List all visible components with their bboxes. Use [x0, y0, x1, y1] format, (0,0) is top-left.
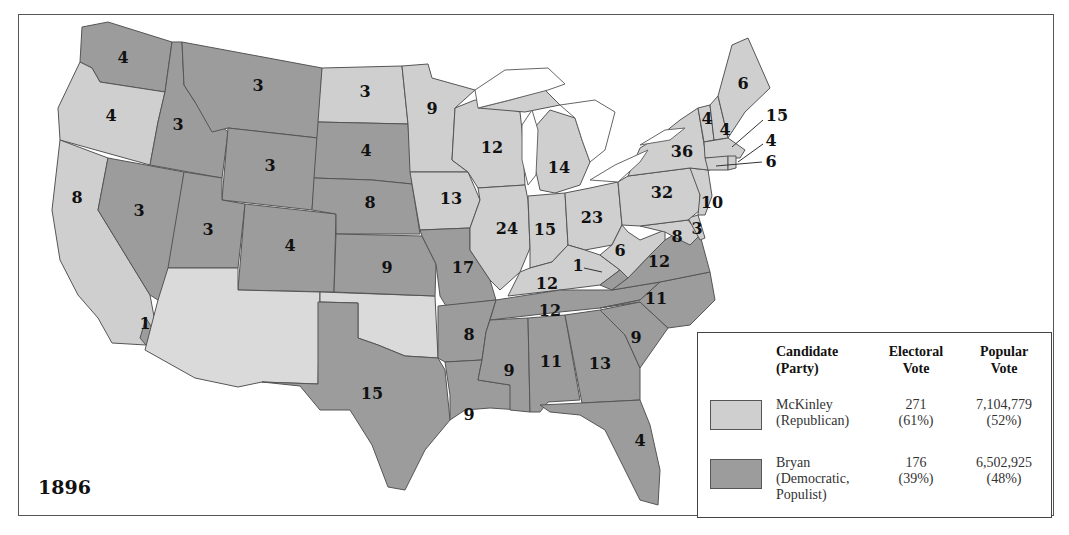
candidate-name: McKinley	[776, 397, 849, 413]
legend-header-popular: Popular Vote	[964, 343, 1044, 377]
label-ct: 6	[765, 152, 776, 171]
label-il: 24	[496, 219, 518, 238]
label-mo: 17	[452, 258, 474, 277]
legend-header-candidate: Candidate (Party)	[776, 343, 838, 377]
legend-header-electoral-line2: Vote	[878, 360, 954, 377]
label-wi: 12	[481, 138, 503, 157]
label-ne: 8	[364, 193, 375, 212]
legend-swatch-mckinley	[710, 400, 762, 430]
election-year: 1896	[38, 476, 91, 498]
popular-count: 7,104,779	[964, 397, 1044, 413]
legend-popular-mckinley: 7,104,779 (52%)	[964, 397, 1044, 429]
label-ca-split: 1	[139, 314, 150, 333]
label-sc: 9	[630, 328, 641, 347]
label-ky: 12	[536, 274, 558, 293]
label-va: 12	[648, 252, 670, 271]
label-mn: 9	[426, 99, 437, 118]
label-nc: 11	[645, 289, 667, 308]
label-co: 4	[284, 236, 295, 255]
legend-header-popular-line2: Vote	[964, 360, 1044, 377]
candidate-party: (Democratic,	[776, 471, 849, 487]
popular-pct: (48%)	[964, 471, 1044, 487]
label-ky-split: 1	[572, 256, 583, 275]
legend-electoral-mckinley: 271 (61%)	[878, 397, 954, 429]
legend-swatch-bryan	[710, 459, 762, 489]
label-ca: 8	[71, 188, 82, 207]
candidate-name: Bryan	[776, 455, 849, 471]
label-ri: 4	[765, 131, 776, 150]
label-tn: 12	[539, 301, 561, 320]
label-in: 15	[534, 220, 556, 239]
label-ar: 8	[463, 325, 474, 344]
label-wv: 6	[614, 241, 625, 260]
legend-box: Candidate (Party) Electoral Vote Popular…	[697, 332, 1052, 518]
legend-electoral-bryan: 176 (39%)	[878, 455, 954, 487]
label-oh: 23	[581, 208, 603, 227]
label-nj: 10	[701, 193, 723, 212]
electoral-count: 176	[878, 455, 954, 471]
state-ri	[728, 156, 736, 170]
label-sd: 4	[360, 141, 371, 160]
legend-header-electoral: Electoral Vote	[878, 343, 954, 377]
label-fl: 4	[634, 431, 645, 450]
label-nv: 3	[133, 201, 144, 220]
label-pa: 32	[651, 183, 673, 202]
legend-candidate-mckinley: McKinley (Republican)	[776, 397, 849, 429]
label-ma: 15	[766, 106, 788, 125]
label-me: 6	[737, 74, 748, 93]
label-mt: 3	[252, 76, 263, 95]
label-nh: 4	[719, 120, 730, 139]
state-ct	[705, 156, 728, 170]
candidate-party: (Republican)	[776, 413, 849, 429]
label-md: 8	[671, 227, 682, 246]
label-de: 3	[691, 219, 702, 238]
label-ny: 36	[671, 142, 693, 161]
legend-header-candidate-line1: Candidate	[776, 343, 838, 360]
label-tx: 15	[361, 384, 383, 403]
label-id: 3	[172, 115, 183, 134]
electoral-pct: (39%)	[878, 471, 954, 487]
label-nd: 3	[359, 82, 370, 101]
label-ia: 13	[440, 189, 462, 208]
label-or: 4	[105, 106, 116, 125]
label-vt: 4	[701, 109, 712, 128]
label-ut: 3	[202, 220, 213, 239]
legend-candidate-bryan: Bryan (Democratic, Populist)	[776, 455, 849, 503]
label-wa: 4	[117, 48, 128, 67]
label-ks: 9	[381, 258, 392, 277]
label-mi: 14	[548, 158, 570, 177]
candidate-party-line2: Populist)	[776, 487, 849, 503]
label-wy: 3	[264, 156, 275, 175]
electoral-pct: (61%)	[878, 413, 954, 429]
electoral-count: 271	[878, 397, 954, 413]
legend-header-candidate-line2: (Party)	[776, 360, 838, 377]
state-fl	[540, 400, 660, 505]
popular-pct: (52%)	[964, 413, 1044, 429]
legend-header-popular-line1: Popular	[964, 343, 1044, 360]
state-ny	[628, 108, 710, 176]
label-ga: 13	[589, 354, 611, 373]
label-al: 11	[540, 352, 562, 371]
label-ms: 9	[503, 361, 514, 380]
legend-popular-bryan: 6,502,925 (48%)	[964, 455, 1044, 487]
popular-count: 6,502,925	[964, 455, 1044, 471]
legend-header-electoral-line1: Electoral	[878, 343, 954, 360]
label-la: 9	[463, 405, 474, 424]
